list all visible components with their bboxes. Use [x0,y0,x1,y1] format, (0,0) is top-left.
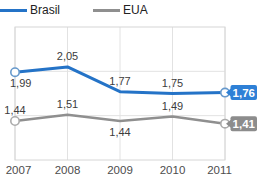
value-label-brasil: 2,05 [57,50,78,62]
point-marker-brasil [11,68,19,76]
end-badge-label-eua: 1,41 [233,118,256,130]
x-tick-label: 2010 [160,164,186,176]
x-tick-label: 2008 [55,164,81,176]
point-marker-eua [11,117,19,125]
x-tick-label: 2009 [107,164,133,176]
line-chart-card: Brasil EUA 1,992,051,771,751,761,441,511… [0,0,263,182]
value-label-eua: 1,44 [109,126,130,138]
value-label-eua: 1,51 [57,98,78,110]
x-tick-label: 2007 [6,164,32,176]
chart-area: 1,992,051,771,751,761,441,511,441,491,41… [0,0,263,182]
value-label-brasil: 1,77 [109,75,130,87]
end-badge-label-brasil: 1,76 [233,87,255,99]
value-label-eua: 1,49 [162,100,183,112]
value-label-brasil: 1,75 [162,77,183,89]
value-label-eua: 1,44 [4,104,25,116]
line-chart: 1,992,051,771,751,761,441,511,441,491,41… [0,0,263,182]
value-label-brasil: 1,99 [10,77,31,89]
x-tick-label: 2011 [207,164,232,176]
